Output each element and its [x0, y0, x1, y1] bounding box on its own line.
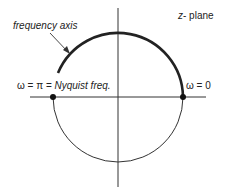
omega-zero-label: ω = 0 — [186, 80, 211, 91]
nyquist-text: Nyquist freq. — [55, 80, 111, 91]
zero-frequency-point — [180, 94, 186, 100]
plane-title: z- plane — [178, 10, 214, 21]
plane-word: - plane — [183, 10, 214, 21]
frequency-axis-label: frequency axis — [13, 20, 77, 31]
nyquist-label: ω = π = Nyquist freq. — [17, 80, 111, 91]
omega-pi-text: ω = π = — [17, 80, 55, 91]
z-plane-diagram: z- plane frequency axis ω = π = Nyquist … — [0, 0, 228, 193]
nyquist-point — [50, 94, 56, 100]
